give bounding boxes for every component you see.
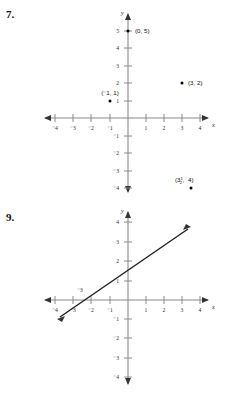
graph-7-scatter-plot: ⁻4 ⁻3 ⁻2 ⁻1 1 2 3 4 5 4 3 2 1 ⁻1 <box>0 0 233 198</box>
y-tick-label: 3 <box>116 239 119 245</box>
y-tick-label: 1 <box>116 278 119 284</box>
x-tick-label: 2 <box>163 125 166 131</box>
point-label: (3, 2) <box>188 79 202 86</box>
x-tick-label: 4 <box>199 125 202 131</box>
x-tick-label: ⁻1 <box>107 307 113 313</box>
problem-9-block: 9. ⁻4 ⁻3 ⁻2 ⁻1 1 2 3 <box>0 198 233 393</box>
page-bottom-clipped-artifact <box>0 383 233 393</box>
point-dot <box>181 82 184 85</box>
point-label-fraction: (312, ⁻4) <box>175 176 194 186</box>
point-dot <box>190 187 193 190</box>
x-tick-label: 3 <box>181 307 184 313</box>
y-tick-label: 4 <box>116 219 119 225</box>
y-tick-label: ⁻1 <box>113 133 119 139</box>
y-tick-label: ⁻4 <box>113 374 119 380</box>
data-point-3-2: (3, 2) <box>181 79 203 86</box>
x-tick-label: 4 <box>199 307 202 313</box>
y-tick-label: 5 <box>116 28 119 34</box>
y-tick-labels-7: 5 4 3 2 1 ⁻1 ⁻2 ⁻3 ⁻4 <box>113 28 119 191</box>
x-axis-right-arrow-7 <box>202 115 209 121</box>
y-tick-label: ⁻2 <box>113 335 119 341</box>
y-tick-label: ⁻4 <box>113 185 119 191</box>
x-tick-labels-9: ⁻4 ⁻3 ⁻2 ⁻1 1 2 3 4 <box>52 307 202 313</box>
point-dot <box>127 30 130 33</box>
x-axis-left-arrow-9 <box>44 297 51 303</box>
graph-9-line-plot: ⁻4 ⁻3 ⁻2 ⁻1 1 2 3 4 4 3 2 1 ⁻1 ⁻2 <box>0 198 233 393</box>
x-tick-label: 3 <box>181 125 184 131</box>
point-label: (0, 5) <box>135 27 149 34</box>
y-axis-name-9: y <box>120 207 124 214</box>
y-tick-label: ⁻1 <box>113 316 119 322</box>
y-axis-name-7: y <box>120 9 124 16</box>
y-axis-up-arrow-7 <box>125 13 131 20</box>
y-axis-up-arrow-9 <box>125 211 131 218</box>
axes-group-7 <box>44 13 209 193</box>
x-tick-label: 2 <box>163 307 166 313</box>
point-dot <box>109 100 112 103</box>
problem-7-block: 7. ⁻4 ⁻3 ⁻2 ⁻1 1 2 <box>0 0 233 198</box>
y-tick-label: 4 <box>116 45 119 51</box>
y-tick-label: 3 <box>116 63 119 69</box>
y-tick-label: ⁻2 <box>113 150 119 156</box>
x-axis-right-arrow-9 <box>202 297 209 303</box>
x-axis-name-7: x <box>211 121 215 128</box>
y-tick-label: ⁻3 <box>113 168 119 174</box>
x-tick-label: ⁻4 <box>52 125 58 131</box>
y-axis-down-arrow-7 <box>125 186 131 193</box>
x-tick-label: 1 <box>145 307 148 313</box>
point-label: (⁻1, 1) <box>101 89 118 96</box>
x-axis-left-arrow-7 <box>44 115 51 121</box>
data-point-3half-neg4: (312, ⁻4) <box>175 176 194 190</box>
x-tick-labels-7: ⁻4 ⁻3 ⁻2 ⁻1 1 2 3 4 <box>52 125 202 131</box>
axes-group-9 <box>44 211 209 385</box>
x-tick-label: ⁻4 <box>52 307 58 313</box>
x-tick-label: ⁻3 <box>70 125 76 131</box>
y-tick-label: 2 <box>116 258 119 264</box>
plotted-line-series <box>57 224 191 322</box>
y-tick-label: 1 <box>116 98 119 104</box>
annotation-neg3: ⁻3 <box>77 287 83 293</box>
y-tick-label: ⁻3 <box>113 355 119 361</box>
x-tick-label: ⁻2 <box>88 125 94 131</box>
x-tick-label: 1 <box>145 125 148 131</box>
x-tick-label: ⁻1 <box>107 125 113 131</box>
x-axis-name-9: x <box>211 303 215 310</box>
y-tick-label: 2 <box>116 80 119 86</box>
x-tick-label: ⁻2 <box>88 307 94 313</box>
